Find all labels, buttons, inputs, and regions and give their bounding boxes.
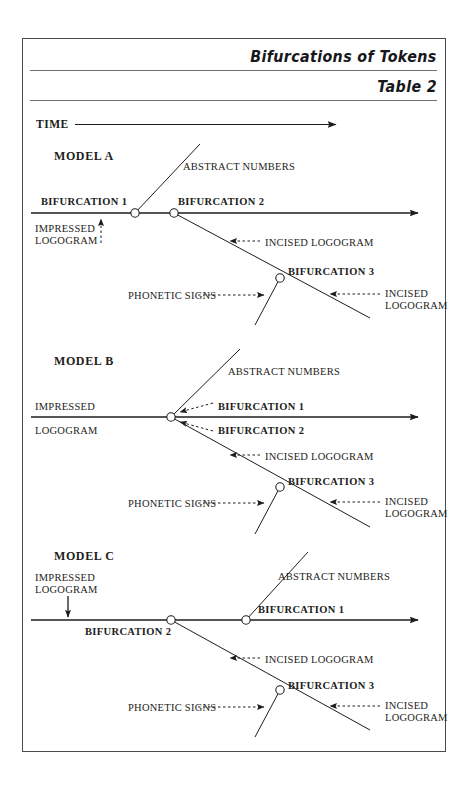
model-c-bifurcation-2-node (167, 616, 175, 624)
model-b-graph (31, 349, 418, 534)
model-b-bifurcation-node (167, 413, 175, 421)
model-b-phonetic-signs-branch (255, 487, 280, 534)
model-c-abstract-numbers-branch (246, 552, 308, 620)
diagram-canvas (0, 0, 470, 786)
model-a-bifurcation-3-node (276, 274, 284, 282)
model-c-graph (31, 552, 418, 737)
model-c-bifurcation-1-node (242, 616, 250, 624)
page-root: Bifurcations of Tokens Table 2 TIME MODE… (0, 0, 470, 786)
model-c-bifurcation-3-node (276, 686, 284, 694)
model-b-bifurcation-1-leader (180, 403, 213, 412)
model-a-incised-logogram-branch (174, 213, 370, 318)
model-b-abstract-numbers-branch (171, 349, 240, 417)
model-b-bifurcation-2-leader (180, 422, 213, 431)
model-a-graph (31, 144, 418, 325)
model-c-phonetic-signs-branch (255, 690, 280, 737)
model-a-bifurcation-2-node (170, 209, 178, 217)
model-a-bifurcation-1-node (131, 209, 139, 217)
model-a-abstract-numbers-branch (135, 144, 200, 213)
model-c-incised-logogram-branch (171, 620, 370, 730)
model-b-bifurcation-3-node (276, 483, 284, 491)
model-a-phonetic-signs-branch (255, 278, 280, 325)
model-b-incised-logogram-branch (171, 417, 370, 527)
